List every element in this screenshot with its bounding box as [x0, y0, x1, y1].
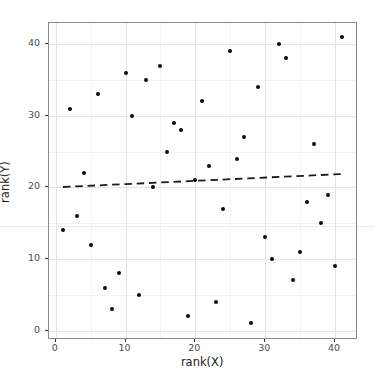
- x-axis-tick-label: 10: [118, 343, 130, 353]
- data-point: [235, 157, 239, 161]
- data-point: [298, 250, 302, 254]
- data-point: [117, 271, 121, 275]
- y-axis-tick-mark: [45, 115, 48, 116]
- data-point: [89, 243, 93, 247]
- data-point: [68, 107, 72, 111]
- x-axis-title: rank(X): [48, 355, 357, 369]
- y-axis-tick-mark: [45, 330, 48, 331]
- data-point: [96, 92, 100, 96]
- data-point: [305, 200, 309, 204]
- y-axis-tick-mark: [45, 186, 48, 187]
- scatter-plot-figure: 010203040010203040 rank(X) rank(Y): [0, 0, 374, 387]
- x-axis-tick-label: 0: [52, 343, 58, 353]
- regression-dashed-line: [63, 174, 342, 187]
- x-axis-tick-label: 20: [188, 343, 200, 353]
- data-point: [110, 307, 114, 311]
- y-axis-tick-label: 10: [4, 253, 40, 263]
- y-axis-tick-mark: [45, 43, 48, 44]
- data-point: [326, 193, 330, 197]
- y-axis-tick-label: 30: [4, 110, 40, 120]
- data-point: [124, 71, 128, 75]
- y-axis-tick-label: 40: [4, 38, 40, 48]
- data-point: [103, 286, 107, 290]
- y-axis-tick-label: 0: [4, 325, 40, 335]
- data-point: [61, 228, 65, 232]
- data-point: [340, 35, 344, 39]
- x-axis-tick-label: 40: [328, 343, 340, 353]
- regression-line-layer: [49, 23, 357, 339]
- data-point: [75, 214, 79, 218]
- plot-panel: [48, 22, 357, 339]
- x-axis-tick-label: 30: [258, 343, 270, 353]
- y-axis-tick-mark: [45, 258, 48, 259]
- y-axis-title: rank(Y): [0, 152, 12, 212]
- data-point: [82, 171, 86, 175]
